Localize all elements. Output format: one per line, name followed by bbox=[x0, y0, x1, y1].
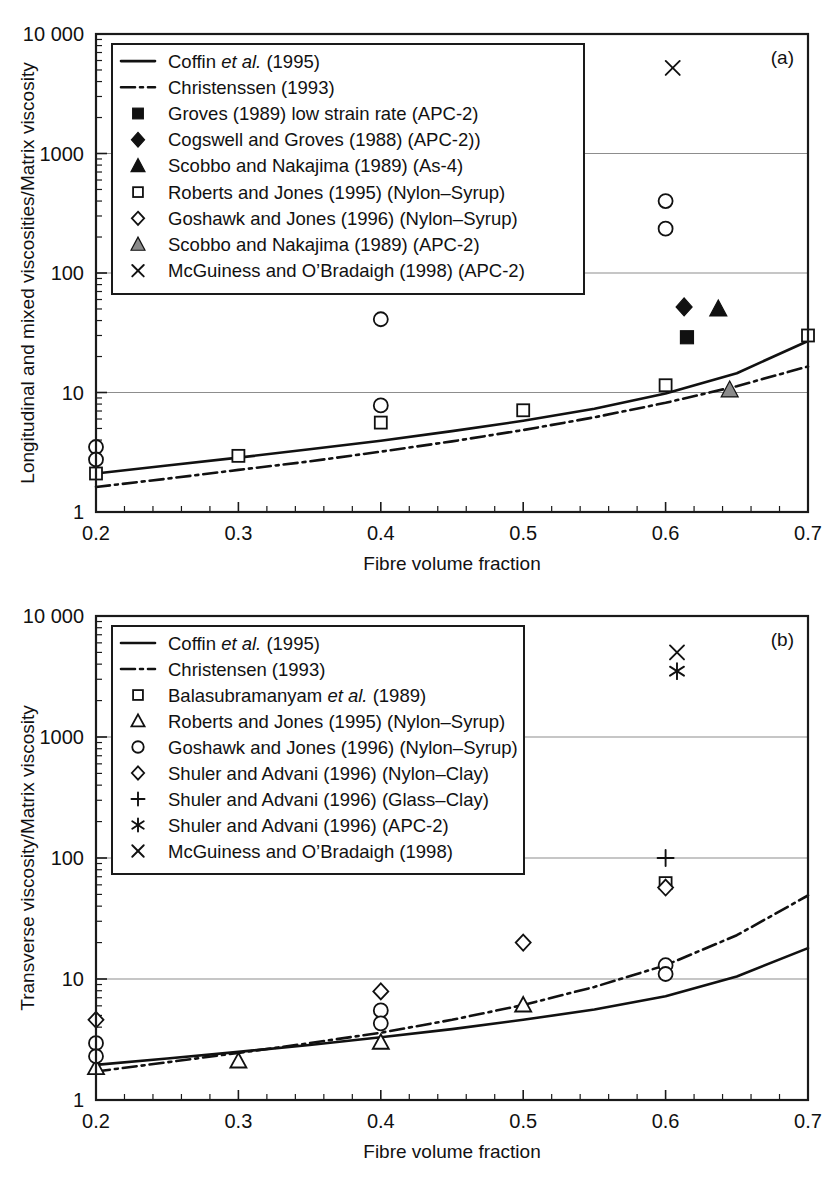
y-axis-title: Longitudinal and mixed viscosities/Matri… bbox=[17, 62, 38, 484]
y-tick-label: 10 bbox=[62, 382, 84, 404]
chart-b-svg: 110100100010 0000.20.30.40.50.60.7Fibre … bbox=[0, 580, 836, 1187]
panel-label: (a) bbox=[771, 47, 794, 68]
legend-item: McGuiness and O’Bradaigh (1998) bbox=[132, 841, 453, 862]
legend-item-label: Shuler and Advani (1996) (Glass–Clay) bbox=[168, 789, 489, 810]
y-tick-label: 1000 bbox=[40, 726, 85, 748]
x-tick-label: 0.4 bbox=[367, 1110, 395, 1132]
x-axis-title: Fibre volume fraction bbox=[363, 553, 540, 574]
y-tick-label: 1 bbox=[73, 501, 84, 523]
legend-item-label: Roberts and Jones (1995) (Nylon–Syrup) bbox=[168, 182, 505, 203]
x-tick-label: 0.4 bbox=[367, 522, 395, 544]
x-tick-label: 0.7 bbox=[794, 1110, 822, 1132]
legend-item: Goshawk and Jones (1996) (Nylon–Syrup) bbox=[132, 737, 517, 758]
legend-item-label: Balasubramanyam et al. (1989) bbox=[168, 685, 426, 706]
curves bbox=[96, 895, 808, 1071]
x-tick-label: 0.2 bbox=[82, 522, 110, 544]
x-tick-label: 0.5 bbox=[509, 522, 537, 544]
legend-item-label: Christenssen (1993) bbox=[168, 77, 335, 98]
curve-coffin bbox=[96, 948, 808, 1065]
legend-item: Shuler and Advani (1996) (Glass–Clay) bbox=[131, 789, 488, 810]
legend-item: Roberts and Jones (1995) (Nylon–Syrup) bbox=[133, 182, 505, 203]
legend-item-label: Shuler and Advani (1996) (APC-2) bbox=[168, 815, 449, 836]
legend-item: Scobbo and Nakajima (1989) (APC-2) bbox=[131, 234, 480, 255]
x-tick-label: 0.2 bbox=[82, 1110, 110, 1132]
y-tick-label: 10 000 bbox=[23, 605, 84, 627]
x-tick-label: 0.6 bbox=[652, 1110, 680, 1132]
chart-a-svg: 110100100010 0000.20.30.40.50.60.7Fibre … bbox=[0, 0, 836, 580]
legend-item-label: Groves (1989) low strain rate (APC-2) bbox=[168, 103, 479, 124]
legend-item: Roberts and Jones (1995) (Nylon–Syrup) bbox=[131, 711, 505, 732]
legend-item: Shuler and Advani (1996) (Nylon–Clay) bbox=[132, 763, 489, 784]
x-axis-title: Fibre volume fraction bbox=[363, 1141, 540, 1162]
legend-item: Balasubramanyam et al. (1989) bbox=[133, 685, 426, 706]
legend-item: Groves (1989) low strain rate (APC-2) bbox=[133, 103, 479, 124]
x-tick-label: 0.6 bbox=[652, 522, 680, 544]
legend-item: Goshawk and Jones (1996) (Nylon–Syrup) bbox=[132, 208, 518, 229]
legend-item-label: Scobbo and Nakajima (1989) (As-4) bbox=[168, 155, 463, 176]
panel-a: 110100100010 0000.20.30.40.50.60.7Fibre … bbox=[0, 0, 836, 580]
curves bbox=[96, 341, 808, 487]
curve-coffin bbox=[96, 341, 808, 474]
y-tick-label: 100 bbox=[51, 262, 84, 284]
x-tick-label: 0.5 bbox=[509, 1110, 537, 1132]
y-tick-label: 10 000 bbox=[23, 23, 84, 45]
legend: Coffin et al. (1995)Christenssen (1993)G… bbox=[112, 44, 584, 294]
legend-item: Shuler and Advani (1996) (APC-2) bbox=[132, 815, 448, 836]
y-tick-label: 100 bbox=[51, 847, 84, 869]
x-tick-labels: 0.20.30.40.50.60.7 bbox=[82, 522, 822, 544]
legend-item-label: Roberts and Jones (1995) (Nylon–Syrup) bbox=[168, 711, 505, 732]
y-tick-label: 1000 bbox=[40, 143, 85, 165]
y-tick-label: 10 bbox=[62, 968, 84, 990]
legend-item-label: Coffin et al. (1995) bbox=[168, 633, 320, 654]
legend-item-label: McGuiness and O’Bradaigh (1998) (APC-2) bbox=[168, 260, 525, 281]
x-tick-label: 0.3 bbox=[224, 522, 252, 544]
legend-item-label: Cogswell and Groves (1988) (APC-2)) bbox=[168, 129, 481, 150]
panel-label: (b) bbox=[771, 629, 794, 650]
legend-item-label: Christensen (1993) bbox=[168, 659, 325, 680]
legend-item-label: Coffin et al. (1995) bbox=[168, 51, 320, 72]
legend-item: Cogswell and Groves (1988) (APC-2)) bbox=[131, 129, 480, 150]
figure-container: 110100100010 0000.20.30.40.50.60.7Fibre … bbox=[0, 0, 836, 1187]
legend-item: Scobbo and Nakajima (1989) (As-4) bbox=[131, 155, 463, 176]
legend-item-label: McGuiness and O’Bradaigh (1998) bbox=[168, 841, 453, 862]
panel-b: 110100100010 0000.20.30.40.50.60.7Fibre … bbox=[0, 580, 836, 1187]
legend-item-label: Scobbo and Nakajima (1989) (APC-2) bbox=[168, 234, 480, 255]
x-tick-labels: 0.20.30.40.50.60.7 bbox=[82, 1110, 822, 1132]
legend-item: McGuiness and O’Bradaigh (1998) (APC-2) bbox=[132, 260, 525, 281]
legend-item-label: Goshawk and Jones (1996) (Nylon–Syrup) bbox=[168, 208, 518, 229]
legend-item-label: Shuler and Advani (1996) (Nylon–Clay) bbox=[168, 763, 489, 784]
y-axis-title: Transverse viscosity/Matrix viscosity bbox=[17, 705, 38, 1011]
legend-item-label: Goshawk and Jones (1996) (Nylon–Syrup) bbox=[168, 737, 518, 758]
x-tick-label: 0.3 bbox=[224, 1110, 252, 1132]
curve-christensen bbox=[96, 895, 808, 1071]
y-tick-label: 1 bbox=[73, 1089, 84, 1111]
legend: Coffin et al. (1995)Christensen (1993)Ba… bbox=[112, 626, 524, 874]
x-tick-label: 0.7 bbox=[794, 522, 822, 544]
